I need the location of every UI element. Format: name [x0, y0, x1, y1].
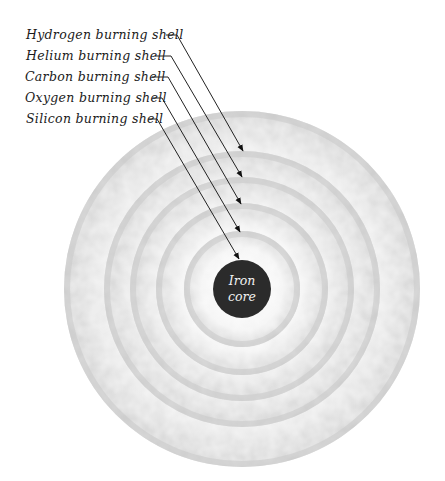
- iron-core-label-line1: Iron: [228, 273, 256, 288]
- label-carbon-shell: Carbon burning shell: [25, 69, 166, 84]
- label-hydrogen-shell: Hydrogen burning shell: [25, 27, 183, 42]
- label-helium-shell: Helium burning shell: [25, 48, 166, 63]
- iron-core: Iron core: [213, 260, 271, 318]
- iron-core-label-line2: core: [228, 289, 256, 304]
- star-shell-diagram: Iron core Hydrogen burning shell Helium …: [0, 0, 445, 481]
- label-oxygen-shell: Oxygen burning shell: [25, 90, 167, 105]
- label-silicon-shell: Silicon burning shell: [26, 111, 163, 126]
